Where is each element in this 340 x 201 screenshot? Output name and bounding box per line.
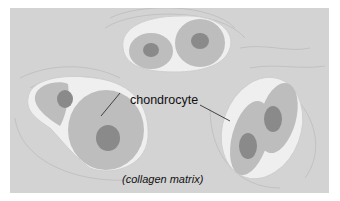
right-cell-pair bbox=[208, 66, 317, 190]
left-cell-pair bbox=[28, 76, 148, 170]
cartilage-figure: chondrocyte (collagen matrix) bbox=[10, 8, 329, 193]
chondrocyte-label: chondrocyte bbox=[130, 93, 198, 107]
top-cell-pair bbox=[123, 16, 231, 72]
collagen-matrix-label: (collagen matrix) bbox=[122, 173, 203, 185]
